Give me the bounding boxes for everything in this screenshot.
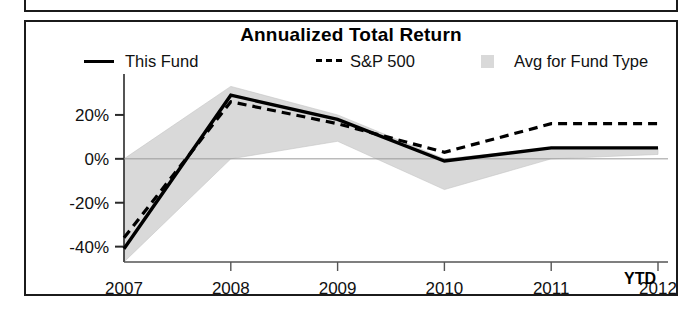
svg-text:2010: 2010 — [425, 279, 463, 298]
svg-text:2009: 2009 — [319, 279, 357, 298]
svg-text:2008: 2008 — [212, 279, 250, 298]
band-avg-fund-type — [124, 86, 658, 262]
svg-text:20%: 20% — [75, 106, 109, 125]
x-axis-ytd-label: YTD — [624, 270, 656, 288]
svg-text:-20%: -20% — [69, 194, 109, 213]
screenshot-root: Annualized Total Return This Fund S&P 50… — [0, 0, 700, 316]
y-tick-labels: 20% 0% -20% -40% — [69, 106, 109, 257]
chart-plot-svg: 20% 0% -20% -40% 2007 2008 2009 2010 201… — [26, 22, 680, 298]
plot-area: 20% 0% -20% -40% 2007 2008 2009 2010 201… — [26, 22, 680, 298]
panel-above-chart — [24, 0, 678, 12]
svg-text:0%: 0% — [84, 150, 109, 169]
chart-panel: Annualized Total Return This Fund S&P 50… — [24, 20, 678, 296]
svg-text:2007: 2007 — [105, 279, 143, 298]
x-tick-labels: 2007 2008 2009 2010 2011 2012 — [105, 279, 677, 298]
svg-text:2011: 2011 — [533, 279, 570, 298]
svg-text:-40%: -40% — [69, 238, 109, 257]
